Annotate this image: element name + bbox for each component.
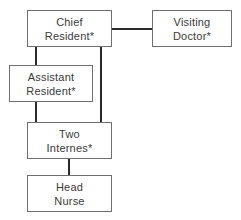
node-head-nurse-line-2: Nurse [54, 194, 84, 208]
node-two-internes: Two Internes* [27, 122, 112, 159]
connector-two-internes-to-head-nurse [68, 158, 70, 176]
connector-assistant-resident-to-two-internes [35, 101, 37, 123]
node-head-nurse: Head Nurse [27, 175, 112, 212]
connector-chief-resident-to-visiting-doctor [111, 28, 153, 30]
node-visiting-doctor-line-1: Visiting [174, 15, 211, 29]
node-chief-resident-line-1: Chief [56, 15, 83, 29]
node-two-internes-line-1: Two [59, 127, 80, 141]
node-chief-resident: Chief Resident* [27, 10, 112, 47]
node-assistant-resident: Assistant Resident* [9, 65, 93, 102]
node-visiting-doctor: Visiting Doctor* [152, 10, 232, 47]
connector-chief-resident-to-assistant-resident [35, 46, 37, 66]
node-visiting-doctor-line-2: Doctor* [173, 29, 211, 43]
node-two-internes-line-2: Internes* [47, 141, 93, 155]
node-chief-resident-line-2: Resident* [45, 29, 95, 43]
node-assistant-resident-line-2: Resident* [26, 84, 76, 98]
connector-chief-resident-to-two-internes [100, 46, 102, 123]
node-head-nurse-line-1: Head [56, 180, 83, 194]
node-assistant-resident-line-1: Assistant [28, 70, 74, 84]
org-chart-canvas: Chief Resident* Visiting Doctor* Assista… [0, 0, 241, 220]
